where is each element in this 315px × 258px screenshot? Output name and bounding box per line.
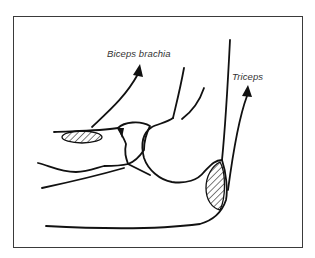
triceps-insertion-hatch	[206, 162, 225, 210]
biceps-brachia-label: Biceps brachia	[107, 48, 171, 59]
triceps-label: Triceps	[232, 71, 263, 82]
biceps-insertion-hatch	[62, 131, 102, 143]
ulna-lower-outline	[46, 160, 227, 228]
humerus-posterior-line	[222, 40, 230, 160]
biceps-arrow-shaft	[92, 74, 138, 127]
humerus-anterior-line	[173, 68, 184, 118]
humerus-medial-line	[182, 88, 204, 119]
elbow-joint-drawing	[0, 0, 315, 258]
triceps-arrow-shaft	[228, 96, 247, 190]
biceps-arrowhead	[133, 64, 143, 77]
triceps-arrowhead	[242, 85, 252, 97]
